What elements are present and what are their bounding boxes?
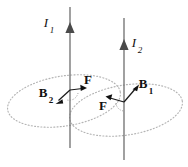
vector-b1-shaft — [124, 88, 136, 102]
wire-2-vectors-group: B 1 F — [99, 76, 154, 113]
current-label-i1: I — [43, 15, 49, 30]
current-label-i2-subscript: 2 — [138, 45, 143, 55]
current-label-i1-subscript: 1 — [50, 25, 55, 35]
vector-label-f-left: F — [84, 72, 92, 87]
wire-1-vectors-group: B 2 F — [39, 72, 92, 105]
vector-b2-shaft — [59, 90, 71, 101]
vector-label-f-right: F — [99, 98, 107, 113]
vector-label-b1: B — [139, 76, 148, 91]
vector-label-b2: B — [39, 85, 48, 100]
current-label-i2: I — [131, 35, 137, 50]
magnetic-force-diagram: I 1 I 2 B 2 F B — [0, 0, 188, 167]
vector-f-right-shaft — [110, 98, 124, 102]
wire-1-current-arrowhead — [65, 22, 74, 33]
angle-arc-left — [67, 93, 78, 100]
angle-arc-right — [116, 103, 124, 111]
vector-label-b2-subscript: 2 — [49, 95, 54, 105]
physics-diagram-canvas: I 1 I 2 B 2 F B — [0, 0, 188, 167]
field-loops-group — [4, 67, 186, 143]
vector-label-b1-subscript: 1 — [149, 86, 154, 96]
wire-2-current-arrowhead — [119, 39, 128, 50]
